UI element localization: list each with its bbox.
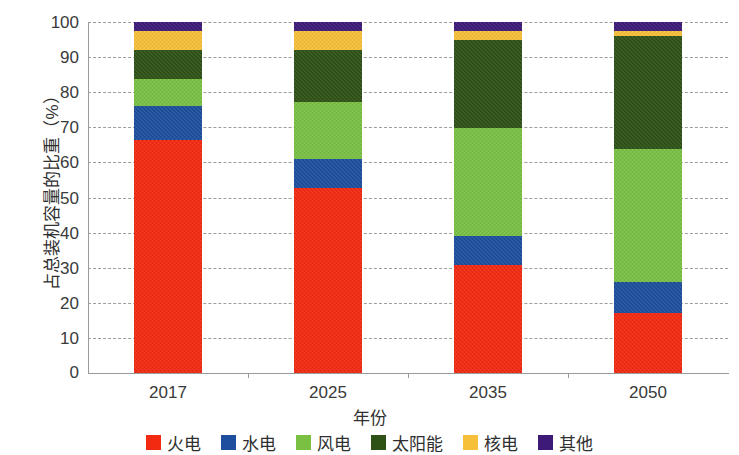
segment-texture [454, 22, 522, 31]
legend-swatch-icon [463, 435, 478, 450]
y-axis-tick-label: 50 [60, 189, 79, 209]
segment-texture [294, 102, 362, 159]
bar-segment-2017-火电[interactable] [134, 140, 202, 373]
segment-texture [454, 31, 522, 40]
y-axis-tick-label: 10 [60, 329, 79, 349]
bar-segment-2050-水电[interactable] [614, 282, 682, 313]
legend-swatch-icon [221, 435, 236, 450]
x-axis-title: 年份 [0, 404, 739, 429]
x-axis-tick-mark [568, 373, 569, 378]
bar-segment-2017-水电[interactable] [134, 106, 202, 140]
bar-2035[interactable] [454, 22, 522, 373]
bar-segment-2050-风电[interactable] [614, 149, 682, 281]
bar-segment-2025-风电[interactable] [294, 102, 362, 159]
legend-swatch-icon [371, 435, 386, 450]
bar-segment-2035-水电[interactable] [454, 236, 522, 264]
bar-segment-2017-风电[interactable] [134, 79, 202, 106]
legend-item-火电[interactable]: 火电 [146, 430, 201, 455]
stacked-bar-chart: 占总装机容量的比重（%） 0102030405060708090100 年份 火… [0, 0, 739, 455]
legend-item-其他[interactable]: 其他 [538, 430, 593, 455]
segment-texture [294, 50, 362, 102]
chart-legend: 火电水电风电太阳能核电其他 [0, 430, 739, 455]
segment-texture [294, 31, 362, 50]
bar-segment-2050-其他[interactable] [614, 22, 682, 31]
legend-item-太阳能[interactable]: 太阳能 [371, 430, 443, 455]
y-axis-tick-label: 30 [60, 259, 79, 279]
x-axis-tick-label-2050: 2050 [629, 383, 667, 403]
legend-label: 核电 [484, 430, 518, 455]
legend-label: 太阳能 [392, 430, 443, 455]
legend-label: 风电 [317, 430, 351, 455]
segment-texture [614, 22, 682, 31]
y-axis-tick-label: 60 [60, 153, 79, 173]
bar-segment-2050-太阳能[interactable] [614, 36, 682, 149]
x-axis-tick-label-2035: 2035 [469, 383, 507, 403]
bar-segment-2025-水电[interactable] [294, 159, 362, 188]
segment-texture [614, 36, 682, 149]
legend-swatch-icon [146, 435, 161, 450]
segment-texture [614, 149, 682, 281]
bar-segment-2025-太阳能[interactable] [294, 50, 362, 102]
y-axis-title: 占总装机容量的比重（%） [38, 19, 63, 359]
bar-segment-2025-核电[interactable] [294, 31, 362, 50]
segment-texture [454, 40, 522, 128]
bar-segment-2035-火电[interactable] [454, 265, 522, 373]
y-axis-tick-label: 0 [70, 363, 79, 383]
segment-texture [134, 31, 202, 50]
legend-item-风电[interactable]: 风电 [296, 430, 351, 455]
plot-area: 0102030405060708090100 [88, 22, 728, 373]
legend-label: 火电 [167, 430, 201, 455]
segment-texture [294, 188, 362, 373]
bar-segment-2050-核电[interactable] [614, 31, 682, 36]
bar-segment-2035-核电[interactable] [454, 31, 522, 40]
y-axis-tick-label: 20 [60, 294, 79, 314]
bar-segment-2017-其他[interactable] [134, 22, 202, 31]
segment-texture [454, 265, 522, 373]
segment-texture [614, 31, 682, 36]
y-axis-tick-label: 100 [51, 13, 79, 33]
legend-item-核电[interactable]: 核电 [463, 430, 518, 455]
segment-texture [294, 22, 362, 31]
segment-texture [134, 106, 202, 140]
segment-texture [454, 128, 522, 236]
legend-item-水电[interactable]: 水电 [221, 430, 276, 455]
legend-label: 其他 [559, 430, 593, 455]
legend-swatch-icon [538, 435, 553, 450]
x-axis-tick-mark [408, 373, 409, 378]
x-axis-tick-label-2017: 2017 [149, 383, 187, 403]
bar-segment-2035-风电[interactable] [454, 128, 522, 236]
bar-segment-2050-火电[interactable] [614, 313, 682, 373]
y-axis-tick-label: 80 [60, 83, 79, 103]
bar-2017[interactable] [134, 22, 202, 373]
bar-segment-2017-太阳能[interactable] [134, 50, 202, 79]
segment-texture [134, 50, 202, 79]
y-axis-tick-label: 90 [60, 48, 79, 68]
segment-texture [614, 313, 682, 373]
bar-segment-2025-其他[interactable] [294, 22, 362, 31]
y-axis-tick-label: 40 [60, 224, 79, 244]
y-axis-tick-label: 70 [60, 118, 79, 138]
segment-texture [134, 140, 202, 373]
bar-segment-2025-火电[interactable] [294, 188, 362, 373]
legend-swatch-icon [296, 435, 311, 450]
bar-2025[interactable] [294, 22, 362, 373]
bar-segment-2035-太阳能[interactable] [454, 40, 522, 128]
x-axis-tick-label-2025: 2025 [309, 383, 347, 403]
segment-texture [614, 282, 682, 313]
bar-2050[interactable] [614, 22, 682, 373]
x-axis-tick-mark [248, 373, 249, 378]
bar-segment-2035-其他[interactable] [454, 22, 522, 31]
segment-texture [294, 159, 362, 188]
segment-texture [134, 79, 202, 106]
segment-texture [134, 22, 202, 31]
segment-texture [454, 236, 522, 264]
legend-label: 水电 [242, 430, 276, 455]
bar-segment-2017-核电[interactable] [134, 31, 202, 50]
